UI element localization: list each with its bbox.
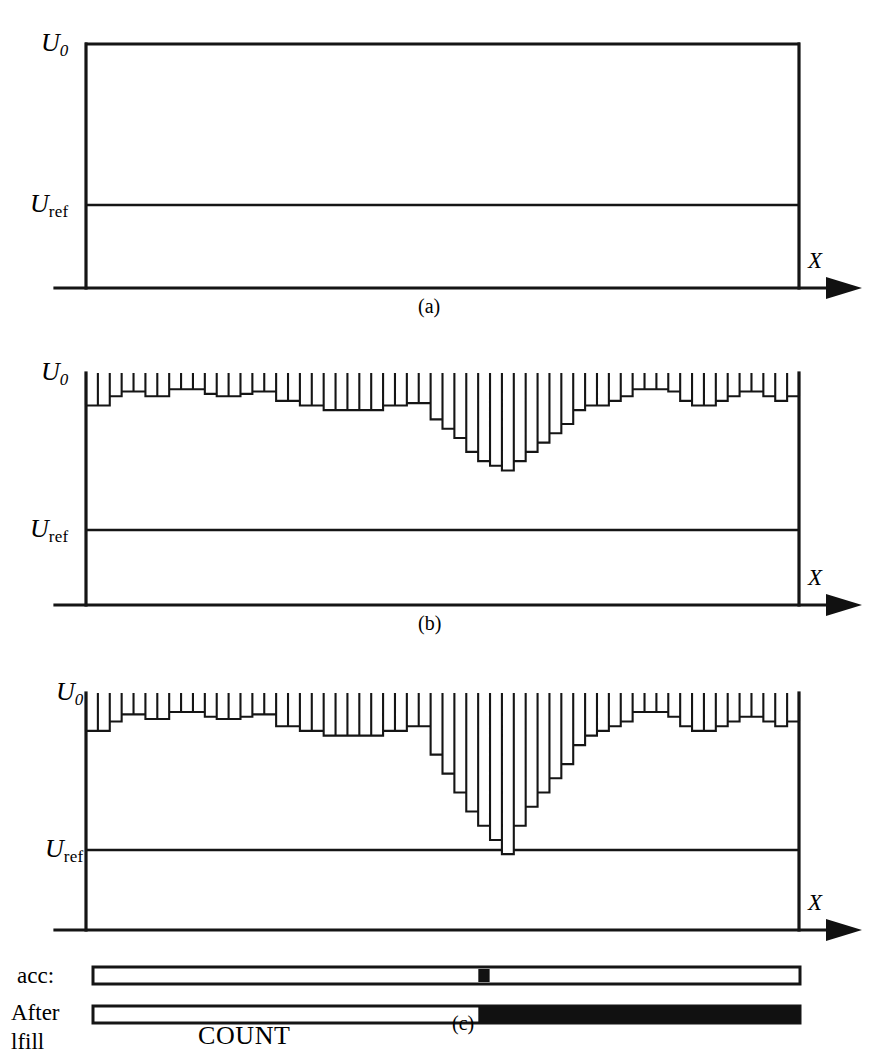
legend-bar-after-lfill-fill bbox=[478, 1006, 800, 1023]
panel-c-u0-label: U0 bbox=[56, 679, 83, 708]
panel-b-uref-label: Uref bbox=[30, 516, 68, 545]
count-label: COUNT bbox=[198, 1023, 291, 1049]
figure-graphics bbox=[0, 0, 871, 1060]
legend-label-lfill: lfill bbox=[11, 1030, 44, 1053]
panel-b-x-arrow-icon bbox=[826, 594, 862, 616]
panel-c-caption: (c) bbox=[452, 1013, 474, 1033]
figure-root: U0 Uref X (a) U0 Uref X (b) U0 Uref X (c… bbox=[0, 0, 871, 1060]
panel-a-x-label: X bbox=[808, 249, 822, 272]
legend-bar-acc bbox=[93, 967, 800, 984]
panel-a-uref-label: Uref bbox=[30, 191, 68, 220]
panel-b-graphics bbox=[55, 373, 862, 616]
panel-b-caption: (b) bbox=[418, 613, 441, 633]
panel-c-x-arrow-icon bbox=[826, 919, 862, 941]
legend-label-after: After bbox=[11, 1001, 60, 1024]
panel-a-x-arrow-icon bbox=[826, 277, 862, 299]
legend-bars bbox=[93, 967, 800, 1023]
panel-a-u0-label: U0 bbox=[41, 30, 68, 59]
panel-b-x-label: X bbox=[808, 566, 822, 589]
legend-bar-acc-marker bbox=[478, 969, 489, 982]
panel-c-x-label: X bbox=[808, 891, 822, 914]
legend-label-acc: acc: bbox=[17, 964, 54, 987]
panel-c-uref-label: Uref bbox=[45, 836, 83, 865]
panel-a-caption: (a) bbox=[418, 296, 440, 316]
panel-c-graphics bbox=[55, 693, 862, 941]
panel-b-u0-label: U0 bbox=[41, 359, 68, 388]
panel-b-bars bbox=[86, 373, 799, 470]
panel-a-graphics bbox=[55, 44, 862, 299]
panel-c-bars bbox=[86, 693, 799, 854]
